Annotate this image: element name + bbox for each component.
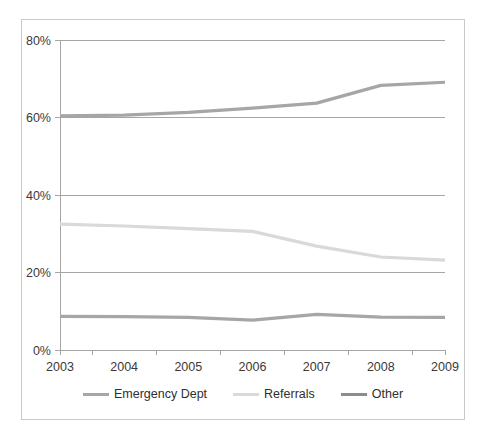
legend-item-referrals[interactable]: Referrals [233,388,315,401]
chart-legend: Emergency DeptReferralsOther [22,388,464,401]
x-axis-tick-label: 2005 [174,360,202,374]
series-line-other [60,314,445,320]
y-axis-tick-label: 80% [26,34,51,48]
legend-item-other[interactable]: Other [341,388,403,401]
line-chart-svg: 80%60%40%20%0%20032004200520062007200820… [22,20,466,421]
legend-swatch-icon [341,393,367,396]
x-axis-tick-label: 2007 [303,360,331,374]
y-axis-tick-label: 0% [33,344,51,358]
legend-item-emergency-dept[interactable]: Emergency Dept [83,388,207,401]
legend-swatch-icon [233,393,259,396]
legend-label: Other [372,388,403,401]
cropped-title-artifact [0,0,489,6]
legend-label: Referrals [264,388,315,401]
y-axis-tick-label: 60% [26,111,51,125]
series-line-referrals [60,224,445,260]
chart-frame: 80%60%40%20%0%20032004200520062007200820… [21,19,465,420]
legend-label: Emergency Dept [114,388,207,401]
x-axis-tick-label: 2003 [46,360,74,374]
y-axis-tick-label: 40% [26,189,51,203]
y-axis-tick-label: 20% [26,266,51,280]
plot-area: 80%60%40%20%0%20032004200520062007200820… [22,20,464,419]
legend-swatch-icon [83,393,109,396]
series-line-emergency-dept [60,82,445,116]
x-axis-tick-label: 2008 [367,360,395,374]
x-axis-tick-label: 2009 [431,360,459,374]
x-axis-tick-label: 2004 [110,360,138,374]
x-axis-tick-label: 2006 [239,360,267,374]
